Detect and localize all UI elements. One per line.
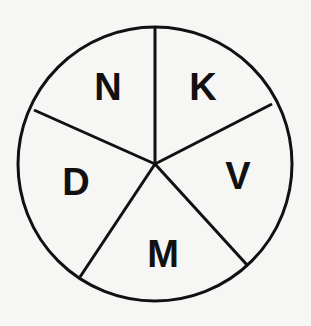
sector-diagram: N K V M D <box>0 0 311 326</box>
sector-label-v: V <box>225 155 251 197</box>
divider-line <box>155 104 272 164</box>
divider-line <box>80 164 155 277</box>
sector-label-n: N <box>94 66 121 108</box>
sector-label-m: M <box>147 233 179 275</box>
divider-line <box>34 110 155 164</box>
sector-label-k: K <box>189 66 217 108</box>
sector-label-d: D <box>62 161 89 203</box>
circle-diagram: N K V M D <box>0 0 311 326</box>
